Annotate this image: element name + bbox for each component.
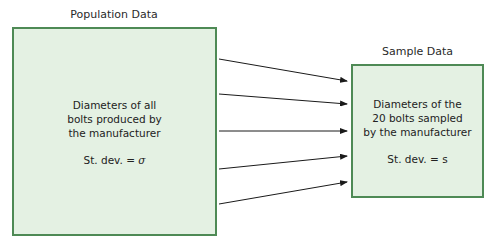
- arrow-4: [219, 156, 347, 169]
- arrow-2: [219, 94, 347, 104]
- arrow-5: [219, 182, 347, 204]
- arrow-1: [219, 59, 347, 81]
- sampling-arrows: [0, 0, 490, 242]
